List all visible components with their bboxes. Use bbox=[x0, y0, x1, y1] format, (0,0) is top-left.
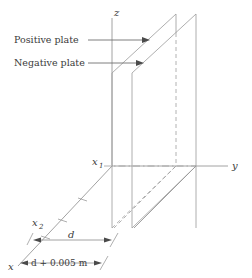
dimension-d-label: d bbox=[68, 229, 74, 240]
x1-marker-symbol: x bbox=[92, 156, 98, 167]
x2-marker-subscript: 2 bbox=[38, 223, 44, 231]
dimension-d-left-arrowhead-icon bbox=[33, 238, 41, 243]
dimension-d-right-arrowhead-icon bbox=[104, 238, 112, 243]
x-axis-label: x bbox=[8, 261, 14, 272]
negative-plate-label: Negative plate bbox=[14, 57, 85, 68]
positive-plate-bottom-edge bbox=[132, 166, 196, 228]
dimension-outer-left-arrowhead-icon bbox=[20, 261, 28, 266]
y-axis-label: y bbox=[231, 160, 238, 171]
x2-marker-symbol: x bbox=[32, 217, 38, 228]
x1-marker-subscript: 1 bbox=[99, 162, 103, 170]
diagram-canvas: z y x Positive plate Negative plate x 1 … bbox=[0, 0, 252, 278]
positive-plate-top-edge bbox=[132, 14, 196, 73]
dimension-outer-label: d + 0.005 m bbox=[31, 258, 88, 268]
physics-diagram-figure: z y x Positive plate Negative plate x 1 … bbox=[0, 0, 252, 278]
x-axis-line bbox=[18, 166, 112, 266]
dimension-d-left-extension bbox=[27, 233, 33, 245]
back-bottom-dashed-oblique bbox=[114, 166, 176, 228]
dimension-outer-right-arrowhead-icon bbox=[94, 261, 102, 266]
z-axis-label: z bbox=[113, 7, 120, 18]
positive-plate-label: Positive plate bbox=[14, 34, 79, 45]
negative-plate-top-edge bbox=[112, 14, 176, 73]
negative-plate-bottom-edge bbox=[112, 166, 176, 228]
